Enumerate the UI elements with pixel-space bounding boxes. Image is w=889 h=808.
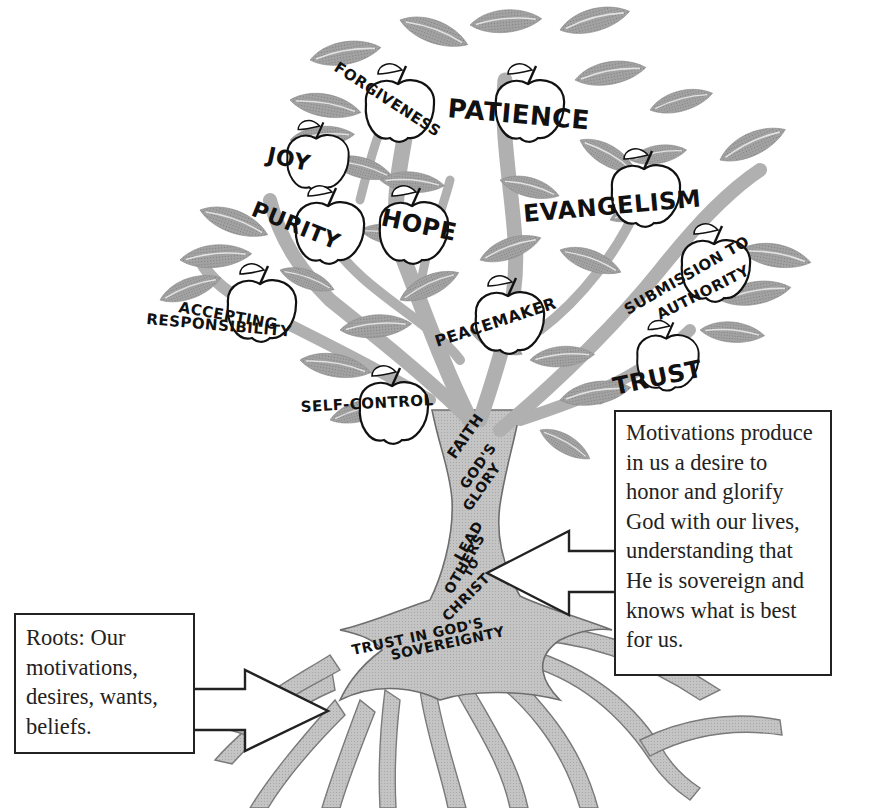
note-line: Motivations produce (626, 418, 820, 448)
note-line: motivations, (26, 653, 183, 683)
motivations-note-box: Motivations produce in us a desire to ho… (614, 410, 832, 676)
note-line: God with our lives, (626, 507, 820, 537)
fruit-label-patience: PATIENCE (446, 93, 591, 135)
note-line: beliefs. (26, 712, 183, 742)
note-line: understanding that (626, 536, 820, 566)
note-line: in us a desire to (626, 448, 820, 478)
roots-note-box: Roots: Our motivations, desires, wants, … (14, 613, 195, 754)
note-line: He is sovereign and (626, 566, 820, 596)
note-line: for us. (626, 625, 820, 655)
note-line: Roots: Our (26, 623, 183, 653)
note-line: knows what is best (626, 596, 820, 626)
note-line: desires, wants, (26, 682, 183, 712)
note-line: honor and glorify (626, 477, 820, 507)
